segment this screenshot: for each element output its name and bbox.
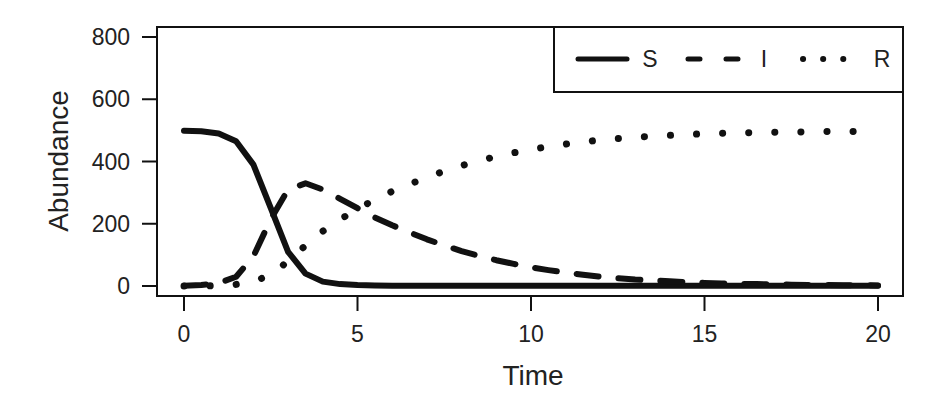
series-lines [184,131,878,286]
y-tick-label: 200 [92,211,130,237]
legend-label-s: S [642,46,657,72]
legend-label-i: I [761,46,767,72]
y-tick-label: 400 [92,149,130,175]
legend: SIR [554,27,903,92]
y-axis: 0200400600800 [92,24,157,299]
y-axis-title: Abundance [43,90,74,232]
x-axis: 05101520 [178,296,891,347]
series-s-line [184,131,878,286]
sir-model-chart: 0200400600800 05101520 Abundance Time SI… [0,0,949,409]
series-i-line [184,183,878,285]
y-tick-label: 0 [117,273,130,299]
series-r-line [184,131,878,286]
y-tick-label: 600 [92,86,130,112]
x-tick-label: 10 [518,321,544,347]
x-tick-label: 5 [351,321,364,347]
x-axis-title: Time [502,360,563,391]
legend-label-r: R [874,46,891,72]
x-tick-label: 20 [865,321,891,347]
x-tick-label: 15 [692,321,718,347]
y-tick-label: 800 [92,24,130,50]
x-tick-label: 0 [178,321,191,347]
